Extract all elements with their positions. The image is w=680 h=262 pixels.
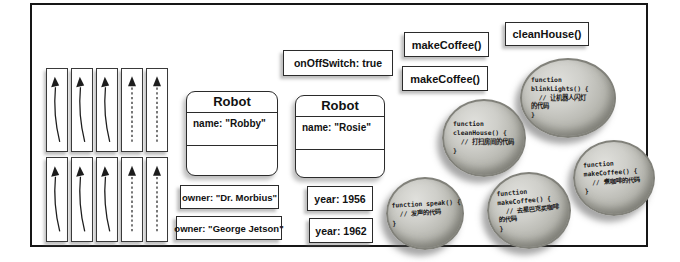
arrow-card — [96, 157, 118, 242]
method-code: function makeCoffee() { // 去星巴克买咖啡 的代码 } — [487, 185, 561, 235]
class-empty-section — [187, 146, 277, 175]
arrow-card — [146, 68, 168, 152]
dashed-up-arrow-icon — [147, 158, 167, 241]
class-empty-section — [296, 150, 384, 177]
method-sphere-speak: function speak() { // 发声的代码 } — [386, 177, 464, 250]
arrow-card — [46, 68, 68, 152]
class-property-name: name: "Robby" — [187, 113, 277, 146]
curved-up-arrow-icon — [97, 69, 117, 151]
arrow-card — [146, 157, 168, 242]
arrow-card — [71, 68, 93, 152]
method-code: function makeCoffee() { // 煮咖啡的代码 } — [574, 158, 641, 198]
label-owner-morbius: owner: "Dr. Morbius" — [180, 185, 279, 209]
dashed-up-arrow-icon — [122, 69, 142, 151]
robot-class-box-rosie: Robot name: "Rosie" — [295, 95, 385, 178]
label-year-1956: year: 1956 — [307, 186, 373, 211]
label-make-coffee-top: makeCoffee() — [404, 32, 489, 57]
curved-up-arrow-icon — [47, 69, 67, 151]
method-sphere-cleanhouse: function cleanHouse() { // 打扫房间的代码 } — [442, 99, 526, 177]
method-code: function blinkLights() { // 让机器人闪灯 的代码 } — [522, 76, 589, 120]
label-clean-house: cleanHouse() — [505, 22, 589, 46]
dashed-up-arrow-icon — [122, 158, 142, 241]
label-on-off-switch: onOffSwitch: true — [283, 50, 393, 76]
arrow-card — [121, 157, 143, 242]
arrow-card — [46, 157, 68, 242]
curved-up-arrow-icon — [72, 69, 92, 151]
label-owner-jetson: owner: "George Jetson" — [176, 216, 282, 240]
class-title: Robot — [296, 96, 384, 117]
method-sphere-makecoffee: function makeCoffee() { // 煮咖啡的代码 } — [573, 140, 655, 216]
curved-up-arrow-icon — [47, 158, 67, 241]
method-code: function speak() { // 发声的代码 } — [387, 198, 462, 228]
method-sphere-makecoffee-starbucks: function makeCoffee() { // 去星巴克买咖啡 的代码 } — [487, 172, 571, 249]
method-sphere-blinklights: function blinkLights() { // 让机器人闪灯 的代码 } — [520, 58, 616, 138]
label-make-coffee-mid: makeCoffee() — [402, 66, 488, 91]
arrow-card — [71, 157, 93, 242]
arrow-card — [96, 68, 118, 152]
robot-class-box-robby: Robot name: "Robby" — [186, 91, 278, 176]
class-title: Robot — [187, 92, 277, 113]
curved-up-arrow-icon — [72, 158, 92, 241]
curved-up-arrow-icon — [97, 158, 117, 241]
class-property-name: name: "Rosie" — [296, 117, 384, 150]
method-code: function cleanHouse() { // 打扫房间的代码 } — [444, 120, 514, 155]
dashed-up-arrow-icon — [147, 69, 167, 151]
label-year-1962: year: 1962 — [309, 218, 373, 243]
arrow-card — [121, 68, 143, 152]
